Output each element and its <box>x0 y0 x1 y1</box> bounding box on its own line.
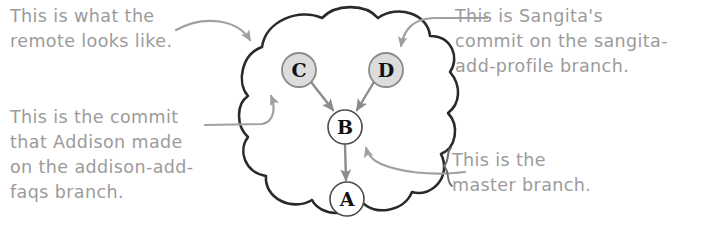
edge-d-to-b <box>357 82 374 110</box>
annotation-sangita-commit: This is Sangita's commit on the sangita-… <box>455 4 705 79</box>
brace-master <box>444 148 452 186</box>
diagram-canvas: This is what the remote looks like. This… <box>0 0 712 244</box>
commit-node-b: B <box>328 110 362 144</box>
edge-b-to-a <box>345 145 346 180</box>
commit-node-b-label: B <box>337 116 353 138</box>
commit-node-d-label: D <box>378 59 394 81</box>
commit-node-a: A <box>330 182 364 216</box>
annotation-addison-commit: This is the commit that Addison made on … <box>10 105 242 205</box>
pointer-arrow-master <box>366 148 465 174</box>
commit-node-d: D <box>369 53 403 87</box>
commit-node-a-label: A <box>339 188 355 210</box>
commit-node-c-label: C <box>291 59 306 81</box>
annotation-remote: This is what the remote looks like. <box>10 4 235 54</box>
annotation-master-branch: This is the master branch. <box>452 148 692 198</box>
commit-node-c: C <box>282 53 316 87</box>
edge-c-to-b <box>311 82 333 110</box>
remote-cloud-outline <box>239 7 458 213</box>
